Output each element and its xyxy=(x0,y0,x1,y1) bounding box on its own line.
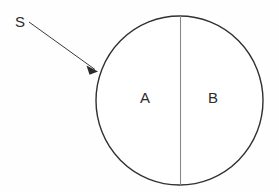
callout-label-s: S xyxy=(15,13,25,30)
region-label-b: B xyxy=(208,89,218,106)
callout-leader-line xyxy=(29,22,95,70)
region-label-a: A xyxy=(140,89,150,106)
set-circle-outline xyxy=(96,16,263,185)
callout-arrow-head-icon xyxy=(87,66,99,75)
diagram-canvas: S A B xyxy=(0,0,279,192)
diagram-svg: S A B xyxy=(0,0,279,192)
